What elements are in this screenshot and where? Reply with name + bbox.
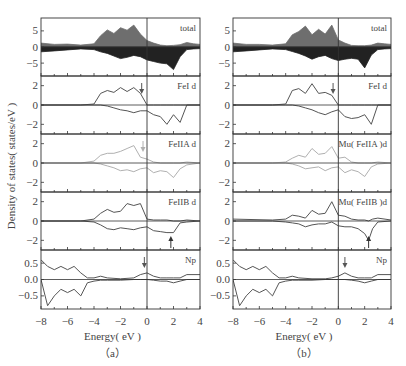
panel-label: FeIIB d	[168, 197, 196, 207]
y-tick-label: −0.5	[18, 289, 38, 301]
y-axis-label: Density of states( states/eV )	[5, 103, 18, 230]
y-tick-label: 0	[225, 157, 231, 169]
y-tick-label: 2	[33, 195, 39, 207]
y-tick-label: 0.0	[24, 273, 38, 285]
panel-total: 50−5total	[218, 18, 391, 76]
y-tick-label: 0.5	[24, 257, 38, 269]
y-tick-label: 2	[33, 137, 39, 149]
x-tick-label: −4	[280, 315, 292, 327]
y-tick-label: −5	[218, 57, 230, 69]
x-tick-label: −6	[253, 315, 265, 327]
chart-b: 50−5total20−2FeI d20−2Mu( FeIIA )d20−2Mu…	[210, 18, 394, 359]
y-tick-label: 0	[33, 157, 39, 169]
x-axis-label: Energy( eV )	[275, 330, 332, 343]
panel-mu-feiib-d: 20−2Mu( FeIIB )d	[218, 192, 391, 250]
y-tick-label: 0	[33, 215, 39, 227]
panel-label: FeIIA d	[168, 139, 196, 149]
y-tick-label: 5	[225, 24, 231, 36]
panel-np: 0.50.0−0.5Np	[210, 250, 391, 309]
panel-label: FeI d	[368, 81, 387, 91]
y-tick-label: 0	[33, 41, 39, 53]
y-tick-label: −5	[26, 57, 38, 69]
y-tick-label: 0	[225, 99, 231, 111]
panel-feiib-d: 20−2FeIIB d	[26, 192, 200, 250]
y-tick-label: 0	[225, 41, 231, 53]
y-tick-label: 2	[225, 79, 231, 91]
x-tick-label: −2	[306, 315, 318, 327]
panel-label: total	[371, 23, 387, 33]
panel-label: Np	[376, 255, 387, 265]
arrow-down-icon	[142, 257, 147, 268]
y-tick-label: 2	[33, 79, 39, 91]
y-tick-label: −2	[218, 234, 230, 246]
y-tick-label: 2	[225, 137, 231, 149]
spin-down-line	[233, 163, 391, 177]
spin-up-area	[233, 25, 391, 47]
y-tick-label: 0	[225, 215, 231, 227]
x-axis-label: Energy( eV )	[84, 330, 141, 343]
y-tick-label: 5	[33, 24, 39, 36]
figure-caption: （b）	[290, 347, 318, 359]
spin-up-line	[233, 260, 391, 279]
arrow-down-icon	[331, 83, 336, 94]
panel-total: 50−5total	[26, 18, 200, 76]
x-tick-label: 4	[388, 315, 394, 327]
y-tick-label: 0.0	[216, 273, 230, 285]
y-tick-label: −2	[218, 176, 230, 188]
arrow-down-icon	[141, 141, 146, 152]
x-tick-label: 0	[144, 315, 150, 327]
spin-down-line	[41, 163, 200, 178]
y-tick-label: −2	[26, 118, 38, 130]
y-tick-label: 0	[33, 99, 39, 111]
panel-label: Mu( FeIIA )d	[339, 139, 388, 149]
spin-up-line	[41, 88, 200, 105]
panel-label: FeI d	[177, 81, 196, 91]
spin-down-line	[233, 105, 391, 124]
spin-up-area	[41, 25, 200, 47]
figure-caption: （a）	[99, 347, 126, 359]
dos-figure: 50−5total20−2FeI d20−2FeIIA d20−2FeIIB d…	[0, 0, 406, 366]
panel-np: 0.50.0−0.5Np	[18, 250, 200, 309]
spin-down-line	[233, 221, 391, 240]
spin-up-line	[233, 147, 391, 163]
y-tick-label: 2	[225, 195, 231, 207]
panel-fei-d: 20−2FeI d	[218, 76, 391, 134]
spin-up-line	[41, 260, 200, 279]
x-tick-label: −2	[115, 315, 127, 327]
spin-down-line	[41, 105, 200, 124]
x-tick-label: 4	[197, 315, 203, 327]
arrow-down-icon	[342, 257, 347, 268]
panel-mu-feiia-d: 20−2Mu( FeIIA )d	[218, 134, 391, 192]
spin-down-line	[41, 221, 200, 233]
panel-label: total	[180, 23, 196, 33]
spin-down-line	[233, 280, 391, 306]
chart-a: 50−5total20−2FeI d20−2FeIIA d20−2FeIIB d…	[18, 18, 203, 359]
y-tick-label: 0.5	[216, 257, 230, 269]
x-tick-label: −6	[62, 315, 74, 327]
panel-label: Mu( FeIIB )d	[339, 197, 388, 207]
spin-down-area	[41, 47, 200, 70]
x-tick-label: 0	[336, 315, 342, 327]
spin-down-area	[233, 47, 391, 68]
x-tick-label: 2	[171, 315, 177, 327]
x-tick-label: 2	[362, 315, 368, 327]
panel-label: Np	[185, 255, 196, 265]
panel-feiia-d: 20−2FeIIA d	[26, 134, 200, 192]
x-tick-label: −8	[227, 315, 239, 327]
y-tick-label: −2	[26, 234, 38, 246]
x-tick-label: −8	[35, 315, 47, 327]
x-tick-label: −4	[88, 315, 100, 327]
arrow-up-icon	[168, 236, 173, 248]
y-tick-label: −0.5	[210, 289, 230, 301]
spin-down-line	[41, 280, 200, 306]
panel-fei-d: 20−2FeI d	[26, 76, 200, 134]
y-tick-label: −2	[26, 176, 38, 188]
y-tick-label: −2	[218, 118, 230, 130]
